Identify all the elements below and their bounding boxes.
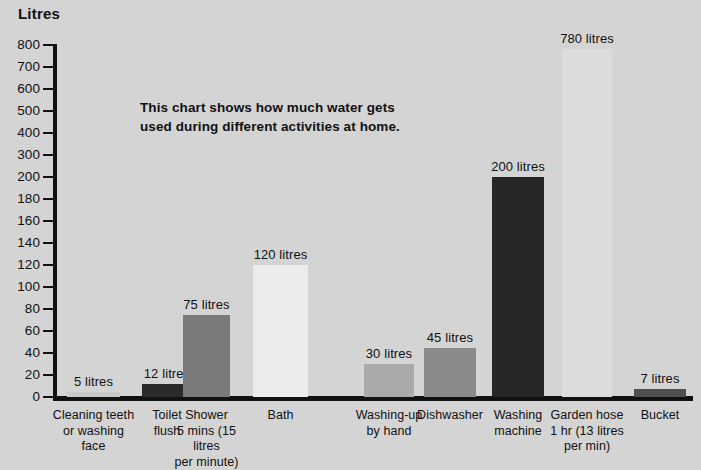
- y-tick-mark: [43, 242, 54, 244]
- bar-value-label: 45 litres: [402, 331, 498, 345]
- y-tick-label: 140: [0, 236, 40, 249]
- bar[interactable]: [183, 315, 230, 398]
- y-tick-mark: [43, 88, 54, 90]
- x-axis-category-labels: Cleaning teethor washing faceToiletflush…: [0, 405, 701, 468]
- bar-value-label: 120 litres: [231, 248, 330, 262]
- y-tick-label: 400: [0, 126, 40, 139]
- y-tick-label: 300: [0, 148, 40, 161]
- plot-area: 5 litres12 litres75 litres120 litres30 l…: [57, 30, 693, 397]
- y-tick-mark: [43, 286, 54, 288]
- y-tick-mark: [43, 264, 54, 266]
- bar-value-label: 7 litres: [612, 372, 701, 386]
- y-tick-label: 700: [0, 60, 40, 73]
- y-tick-label: 200: [0, 170, 40, 183]
- x-axis-label-line: Bucket: [616, 408, 701, 424]
- chart-annotation: This chart shows how much water gets use…: [140, 98, 440, 136]
- y-axis-title: Litres: [18, 5, 60, 22]
- y-tick-label: 600: [0, 82, 40, 95]
- y-tick-mark: [43, 330, 54, 332]
- y-tick-mark: [43, 66, 54, 68]
- y-tick-mark: [43, 308, 54, 310]
- y-tick-mark: [43, 132, 54, 134]
- y-tick-mark: [43, 44, 54, 46]
- bar[interactable]: [364, 364, 414, 397]
- x-axis-label-line: 5 mins (15 litres: [163, 424, 251, 455]
- annotation-line-2: used during different activities at home…: [140, 117, 440, 136]
- x-axis-label: Bucket: [616, 408, 701, 424]
- y-tick-label: 100: [0, 280, 40, 293]
- y-tick-mark: [43, 220, 54, 222]
- bar-value-label: 780 litres: [540, 32, 634, 46]
- y-tick-mark: [43, 198, 54, 200]
- annotation-line-1: This chart shows how much water gets: [140, 98, 440, 117]
- y-tick-label: 20: [0, 368, 40, 381]
- bar[interactable]: [253, 265, 308, 397]
- y-tick-label: 800: [0, 38, 40, 51]
- y-tick-mark: [43, 154, 54, 156]
- y-tick-label: 160: [0, 214, 40, 227]
- bar[interactable]: [634, 389, 686, 397]
- bar[interactable]: [67, 392, 120, 398]
- y-tick-mark: [43, 176, 54, 178]
- x-axis-label-line: per minute): [163, 455, 251, 470]
- y-tick-label: 80: [0, 302, 40, 315]
- bar[interactable]: [562, 49, 612, 397]
- y-tick-label: 180: [0, 192, 40, 205]
- bar[interactable]: [424, 348, 476, 398]
- bar-value-label: 200 litres: [470, 160, 566, 174]
- y-tick-mark: [43, 110, 54, 112]
- y-tick-label: 40: [0, 346, 40, 359]
- x-axis-label: Bath: [237, 408, 325, 424]
- bar-value-label: 30 litres: [342, 347, 436, 361]
- y-tick-label: 0: [0, 390, 40, 403]
- bar[interactable]: [492, 177, 544, 397]
- x-axis-label-line: by hand: [345, 424, 433, 440]
- y-tick-mark: [43, 396, 54, 398]
- x-axis-label-line: Bath: [237, 408, 325, 424]
- y-tick-label: 60: [0, 324, 40, 337]
- x-axis-label-line: per min): [543, 439, 631, 455]
- y-tick-label: 500: [0, 104, 40, 117]
- y-tick-mark: [43, 352, 54, 354]
- bar-value-label: 75 litres: [161, 298, 252, 312]
- y-tick-label: 120: [0, 258, 40, 271]
- x-axis-label-line: 1 hr (13 litres: [543, 424, 631, 440]
